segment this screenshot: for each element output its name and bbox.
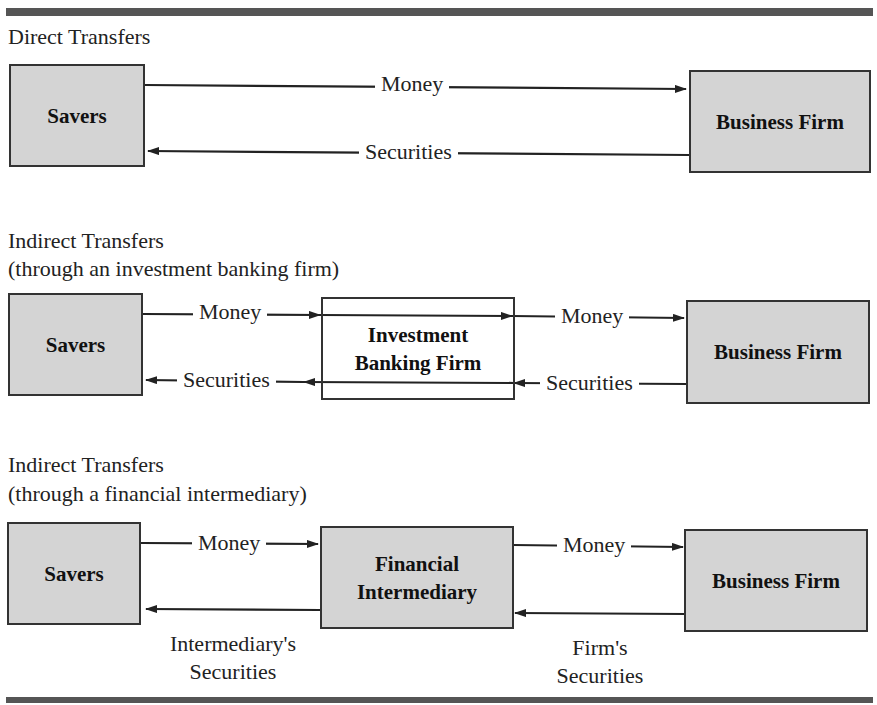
ibf-label: Investment Banking Firm <box>355 321 482 377</box>
ibf-label-line1: Investment <box>355 321 482 349</box>
securities-label-direct: Securities <box>359 140 458 164</box>
savers-label: Savers <box>46 331 106 359</box>
securities-label-ibf-right: Securities <box>540 371 639 395</box>
firm-securities-line2: Securities <box>540 664 660 688</box>
section-title-direct: Direct Transfers <box>8 24 150 50</box>
fi-label: Financial Intermediary <box>357 550 477 606</box>
intermediary-securities-line2: Securities <box>153 660 313 684</box>
money-label-ibf-right: Money <box>555 304 629 328</box>
section-title-fi: Indirect Transfers <box>8 452 164 478</box>
securities-label-ibf-left: Securities <box>177 368 276 392</box>
money-label-fi-left: Money <box>192 531 266 555</box>
savers-box-direct: Savers <box>9 64 145 167</box>
firm-securities-line1: Firm's <box>540 636 660 660</box>
investment-banking-firm-box: Investment Banking Firm <box>321 297 515 400</box>
money-label-direct: Money <box>375 72 449 96</box>
savers-box-fi: Savers <box>7 522 141 625</box>
ibf-label-line2: Banking Firm <box>355 349 482 377</box>
money-label-ibf-left: Money <box>193 300 267 324</box>
business-firm-box-fi: Business Firm <box>684 529 868 632</box>
fi-label-line2: Intermediary <box>357 578 477 606</box>
section-subtitle-fi: (through a financial intermediary) <box>8 481 307 507</box>
section-subtitle-ibf: (through an investment banking firm) <box>8 256 339 282</box>
savers-box-ibf: Savers <box>8 293 143 396</box>
intermediary-securities-label: Intermediary's Securities <box>153 632 313 684</box>
securities-arrow-fi-to-savers <box>146 609 320 610</box>
money-label-fi-right: Money <box>557 533 631 557</box>
fi-label-line1: Financial <box>357 550 477 578</box>
intermediary-securities-line1: Intermediary's <box>153 632 313 656</box>
section-title-ibf: Indirect Transfers <box>8 228 164 254</box>
bottom-rule <box>6 697 873 703</box>
business-firm-box-ibf: Business Firm <box>686 300 870 404</box>
firm-securities-label: Firm's Securities <box>540 636 660 688</box>
financial-intermediary-box: Financial Intermediary <box>320 526 514 629</box>
business-firm-box-direct: Business Firm <box>689 70 871 173</box>
securities-arrow-firm-to-fi <box>515 613 685 614</box>
